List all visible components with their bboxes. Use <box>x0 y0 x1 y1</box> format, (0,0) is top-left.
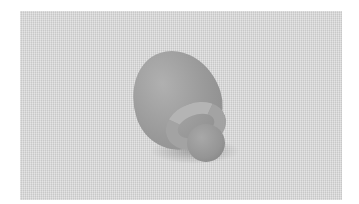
small-sphere-shape <box>187 124 225 162</box>
